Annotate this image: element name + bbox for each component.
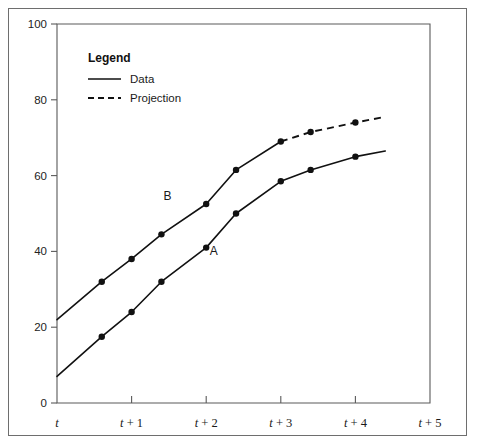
x-tick-label: t + 1: [120, 416, 143, 430]
curve-label-a: A: [210, 244, 218, 258]
series-group: [57, 117, 385, 377]
data-point-marker: [158, 231, 164, 237]
x-tick-label: t + 4: [344, 416, 368, 430]
line-chart: 020406080100 tt + 1t + 2t + 3t + 4t + 5 …: [0, 0, 477, 445]
y-tick-label: 60: [34, 170, 47, 182]
data-point-marker: [233, 167, 239, 173]
data-point-marker: [203, 244, 209, 250]
data-point-marker: [352, 153, 358, 159]
data-point-marker: [99, 333, 105, 339]
curve-label-b: B: [163, 189, 171, 203]
axis-frame: [57, 24, 430, 403]
chart-legend: Legend Data Projection: [88, 51, 181, 104]
data-point-marker: [278, 138, 284, 144]
x-tick-label: t + 3: [269, 416, 292, 430]
x-tick-label: t: [55, 416, 59, 430]
data-point-marker: [203, 201, 209, 207]
data-point-marker: [307, 167, 313, 173]
data-point-marker: [233, 210, 239, 216]
y-tick-label: 20: [34, 321, 47, 333]
data-point-marker: [128, 256, 134, 262]
data-point-marker: [128, 309, 134, 315]
figure-container: 020406080100 tt + 1t + 2t + 3t + 4t + 5 …: [0, 0, 477, 445]
data-point-marker: [99, 279, 105, 285]
data-point-marker: [352, 119, 358, 125]
y-tick-label: 0: [41, 397, 47, 409]
series-line-b: [57, 141, 281, 319]
y-tick-label: 100: [28, 18, 47, 30]
data-point-marker: [278, 178, 284, 184]
series-line-b-projection: [281, 117, 385, 142]
y-tick-label: 40: [34, 245, 47, 257]
x-tick-label: t + 2: [195, 416, 218, 430]
y-tick-label: 80: [34, 94, 47, 106]
x-axis-ticks: tt + 1t + 2t + 3t + 4t + 5: [55, 396, 441, 430]
legend-label-projection: Projection: [130, 92, 181, 104]
data-point-marker: [158, 279, 164, 285]
legend-label-data: Data: [130, 73, 155, 85]
series-line-a: [57, 151, 385, 377]
legend-title: Legend: [88, 51, 131, 65]
y-axis-ticks: 020406080100: [28, 18, 57, 409]
data-point-marker: [307, 129, 313, 135]
plot-axes: [57, 24, 430, 403]
x-tick-label: t + 5: [418, 416, 441, 430]
